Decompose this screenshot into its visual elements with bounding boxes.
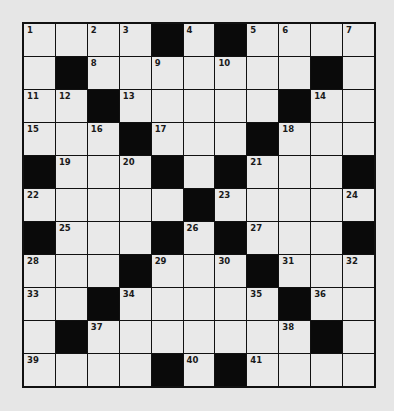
- crossword-cell[interactable]: [152, 288, 183, 320]
- crossword-cell[interactable]: [120, 57, 151, 89]
- crossword-cell[interactable]: [88, 354, 119, 386]
- crossword-cell[interactable]: [247, 57, 278, 89]
- crossword-cell[interactable]: 16: [88, 123, 119, 155]
- crossword-cell[interactable]: [56, 123, 87, 155]
- crossword-cell[interactable]: [311, 354, 342, 386]
- crossword-cell[interactable]: [152, 321, 183, 353]
- crossword-cell[interactable]: [311, 24, 342, 56]
- crossword-cell[interactable]: [56, 255, 87, 287]
- crossword-cell[interactable]: 28: [24, 255, 55, 287]
- crossword-cell[interactable]: 6: [279, 24, 310, 56]
- crossword-cell[interactable]: 23: [215, 189, 246, 221]
- crossword-cell[interactable]: [184, 321, 215, 353]
- crossword-cell[interactable]: [88, 156, 119, 188]
- crossword-cell[interactable]: [120, 354, 151, 386]
- crossword-cell[interactable]: [343, 123, 374, 155]
- crossword-cell[interactable]: [279, 189, 310, 221]
- crossword-cell[interactable]: 36: [311, 288, 342, 320]
- crossword-cell[interactable]: 34: [120, 288, 151, 320]
- crossword-cell[interactable]: 26: [184, 222, 215, 254]
- crossword-cell[interactable]: [56, 354, 87, 386]
- crossword-cell[interactable]: [343, 57, 374, 89]
- crossword-cell[interactable]: 40: [184, 354, 215, 386]
- crossword-cell[interactable]: 27: [247, 222, 278, 254]
- clue-number: 38: [282, 323, 294, 332]
- crossword-cell[interactable]: [56, 288, 87, 320]
- crossword-cell[interactable]: [152, 90, 183, 122]
- crossword-cell[interactable]: 30: [215, 255, 246, 287]
- crossword-cell[interactable]: [279, 156, 310, 188]
- crossword-cell[interactable]: 29: [152, 255, 183, 287]
- crossword-cell[interactable]: [88, 189, 119, 221]
- crossword-cell[interactable]: [120, 222, 151, 254]
- crossword-cell[interactable]: 21: [247, 156, 278, 188]
- crossword-cell[interactable]: 22: [24, 189, 55, 221]
- crossword-cell[interactable]: [184, 288, 215, 320]
- crossword-cell[interactable]: [247, 189, 278, 221]
- crossword-cell[interactable]: [215, 90, 246, 122]
- crossword-cell[interactable]: 17: [152, 123, 183, 155]
- crossword-cell[interactable]: 18: [279, 123, 310, 155]
- crossword-cell[interactable]: [343, 288, 374, 320]
- crossword-cell[interactable]: [215, 123, 246, 155]
- crossword-cell[interactable]: 11: [24, 90, 55, 122]
- crossword-cell[interactable]: [88, 255, 119, 287]
- crossword-cell[interactable]: 19: [56, 156, 87, 188]
- clue-number: 30: [218, 257, 230, 266]
- crossword-cell[interactable]: 24: [343, 189, 374, 221]
- crossword-cell[interactable]: [184, 57, 215, 89]
- crossword-cell[interactable]: [279, 57, 310, 89]
- crossword-cell[interactable]: 2: [88, 24, 119, 56]
- crossword-cell[interactable]: [215, 288, 246, 320]
- crossword-cell[interactable]: [120, 321, 151, 353]
- crossword-cell[interactable]: [24, 321, 55, 353]
- crossword-cell[interactable]: 14: [311, 90, 342, 122]
- crossword-cell[interactable]: 37: [88, 321, 119, 353]
- crossword-cell[interactable]: 1: [24, 24, 55, 56]
- crossword-cell[interactable]: [311, 222, 342, 254]
- black-square: [311, 321, 342, 353]
- clue-number: 39: [27, 356, 39, 365]
- crossword-cell[interactable]: 5: [247, 24, 278, 56]
- crossword-cell[interactable]: [247, 90, 278, 122]
- crossword-cell[interactable]: [184, 123, 215, 155]
- crossword-cell[interactable]: [311, 189, 342, 221]
- crossword-cell[interactable]: [184, 255, 215, 287]
- crossword-cell[interactable]: [343, 354, 374, 386]
- crossword-cell[interactable]: [24, 57, 55, 89]
- crossword-cell[interactable]: [184, 156, 215, 188]
- crossword-cell[interactable]: 3: [120, 24, 151, 56]
- crossword-cell[interactable]: 12: [56, 90, 87, 122]
- crossword-cell[interactable]: 41: [247, 354, 278, 386]
- crossword-cell[interactable]: [56, 24, 87, 56]
- crossword-cell[interactable]: [247, 321, 278, 353]
- crossword-cell[interactable]: [120, 189, 151, 221]
- crossword-cell[interactable]: 38: [279, 321, 310, 353]
- crossword-cell[interactable]: 9: [152, 57, 183, 89]
- crossword-cell[interactable]: 35: [247, 288, 278, 320]
- crossword-cell[interactable]: [215, 321, 246, 353]
- crossword-cell[interactable]: 4: [184, 24, 215, 56]
- crossword-cell[interactable]: 20: [120, 156, 151, 188]
- crossword-cell[interactable]: 10: [215, 57, 246, 89]
- crossword-cell[interactable]: [152, 189, 183, 221]
- crossword-cell[interactable]: 31: [279, 255, 310, 287]
- crossword-cell[interactable]: [184, 90, 215, 122]
- crossword-cell[interactable]: [279, 354, 310, 386]
- crossword-cell[interactable]: [343, 321, 374, 353]
- crossword-cell[interactable]: 39: [24, 354, 55, 386]
- crossword-cell[interactable]: [343, 90, 374, 122]
- crossword-cell[interactable]: [88, 222, 119, 254]
- crossword-cell[interactable]: 7: [343, 24, 374, 56]
- crossword-cell[interactable]: [56, 189, 87, 221]
- crossword-cell[interactable]: 8: [88, 57, 119, 89]
- crossword-cell[interactable]: [279, 222, 310, 254]
- crossword-cell[interactable]: 25: [56, 222, 87, 254]
- crossword-cell[interactable]: [311, 156, 342, 188]
- crossword-cell[interactable]: 33: [24, 288, 55, 320]
- crossword-cell[interactable]: 13: [120, 90, 151, 122]
- crossword-cell[interactable]: 32: [343, 255, 374, 287]
- crossword-cell[interactable]: [311, 123, 342, 155]
- crossword-cell[interactable]: 15: [24, 123, 55, 155]
- crossword-cell[interactable]: [311, 255, 342, 287]
